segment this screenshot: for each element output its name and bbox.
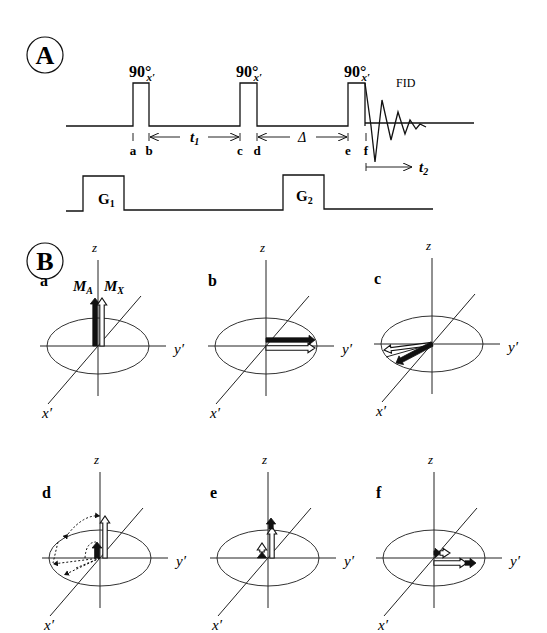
gradient-g2-label: G2 (296, 188, 313, 206)
svg-text:t2: t2 (419, 159, 428, 177)
pulse-label-3: 90°x′ (344, 63, 370, 83)
svg-text:90°x′: 90°x′ (236, 63, 262, 83)
timepoint-d: d (253, 143, 261, 158)
y-axis-label: y′ (174, 553, 187, 569)
x-axis-label: x′ (209, 405, 221, 421)
mx-label: MX (103, 278, 124, 296)
vector-diagram-f: zy′x′f (376, 452, 521, 633)
projection-line (53, 542, 58, 563)
ma-label: MA (72, 278, 93, 296)
subpanel-label-b: b (208, 272, 217, 289)
figure-canvas: A 90°x′ 90°x′ 90°x′ FID a b c d (0, 0, 547, 633)
x-axis-label: x′ (211, 617, 223, 633)
mx-vector (100, 516, 109, 558)
pulse-label-1: 90°x′ (129, 63, 155, 83)
pulse-label-2: 90°x′ (236, 63, 262, 83)
x-axis-label: x′ (43, 617, 55, 633)
subpanel-label-c: c (374, 270, 381, 287)
svg-text:t1: t1 (190, 129, 199, 147)
ma-vector-tip (465, 558, 476, 567)
ma-vector-small (257, 552, 266, 558)
x-axis (218, 508, 311, 616)
vector-diagram-c: zy′x′c (374, 238, 519, 419)
rf-pulse-train (66, 83, 365, 126)
z-axis-label: z (425, 238, 431, 253)
mx-vector-small (257, 543, 266, 552)
subpanel-label-a: a (40, 272, 48, 289)
y-axis-label: y′ (342, 553, 355, 569)
mx-vector (267, 527, 276, 558)
dephased-vector-1 (53, 558, 100, 564)
x-axis-label: x′ (377, 617, 389, 633)
x-axis-label: x′ (375, 403, 387, 419)
x-axis (50, 508, 143, 616)
timepoint-a: a (130, 143, 137, 158)
fid-label: FID (396, 76, 416, 90)
x-axis-label: x′ (41, 405, 53, 421)
y-axis-label: y′ (508, 553, 521, 569)
y-axis-label: y′ (172, 341, 185, 357)
subpanel-label-f: f (376, 484, 382, 501)
vector-diagram-d: zy′x′d (42, 452, 187, 633)
mx-vector (266, 343, 315, 352)
z-axis-label: z (91, 240, 97, 255)
y-axis-label: y′ (340, 341, 353, 357)
z-axis-label: z (93, 452, 99, 467)
vector-diagram-e: zy′x′e (210, 452, 355, 633)
mx-vector (97, 298, 106, 346)
z-axis-label: z (259, 240, 265, 255)
subpanel-label-d: d (42, 484, 51, 501)
mx-vector (434, 558, 467, 567)
timepoint-c: c (237, 143, 243, 158)
subpanel-label-e: e (210, 484, 217, 501)
gradient-g1-label: G1 (98, 191, 115, 209)
svg-text:Δ: Δ (297, 130, 306, 145)
panel-a-label: A (36, 41, 55, 70)
svg-text:90°x′: 90°x′ (129, 63, 155, 83)
panel-a-badge: A (27, 37, 63, 73)
panel-b: B zy′x′aMAMXzy′x′bzy′x′czy′x′dzy′x′ezy′x… (27, 238, 521, 633)
panel-a: A 90°x′ 90°x′ 90°x′ FID a b c d (27, 37, 474, 211)
timepoint-f: f (364, 143, 369, 158)
z-axis-label: z (427, 452, 433, 467)
t1-interval: t1 (150, 129, 239, 147)
z-axis-label: z (261, 452, 267, 467)
vector-diagram-b: zy′x′b (208, 240, 353, 421)
gradient-train (66, 175, 433, 211)
svg-text:90°x′: 90°x′ (344, 63, 370, 83)
delta-interval: Δ (258, 130, 347, 145)
timepoint-e: e (345, 143, 351, 158)
timepoint-b: b (145, 143, 152, 158)
y-axis-label: y′ (506, 339, 519, 355)
